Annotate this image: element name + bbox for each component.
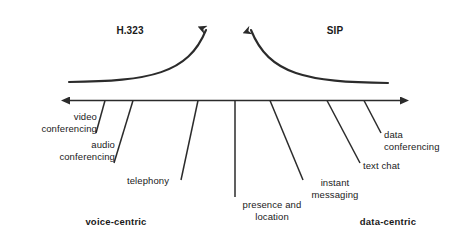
axis-end-label-data-centric: data-centric xyxy=(340,216,436,228)
sip-convergence-curve xyxy=(251,30,388,83)
service-label-text-chat: text chat xyxy=(363,160,433,172)
leader-line-data-conferencing xyxy=(364,101,381,134)
service-label-audio-conferencing: audio conferencing xyxy=(18,139,115,162)
leader-line-audio-conferencing xyxy=(114,101,133,164)
leader-line-instant-messaging xyxy=(270,101,303,181)
service-label-presence-location: presence and location xyxy=(230,199,314,222)
service-label-video-conferencing: video conferencing xyxy=(0,111,97,134)
service-label-instant-messaging: instant messaging xyxy=(304,177,366,200)
protocol-label-sip: SIP xyxy=(290,25,380,37)
h323-convergence-curve xyxy=(69,30,206,82)
diagram-canvas: H.323 SIP video conferencing audio confe… xyxy=(0,0,462,242)
leader-line-telephony xyxy=(181,101,198,181)
leader-line-video-conferencing xyxy=(96,101,105,134)
service-label-data-conferencing: data conferencing xyxy=(384,129,462,152)
axis-end-label-voice-centric: voice-centric xyxy=(68,216,164,228)
leader-line-text-chat xyxy=(327,101,360,164)
protocol-label-h323: H.323 xyxy=(85,25,175,37)
service-label-telephony: telephony xyxy=(113,175,183,187)
